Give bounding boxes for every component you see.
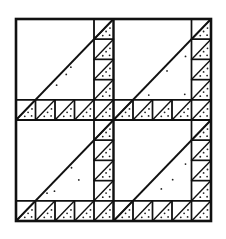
quilt-diagram	[0, 0, 226, 239]
